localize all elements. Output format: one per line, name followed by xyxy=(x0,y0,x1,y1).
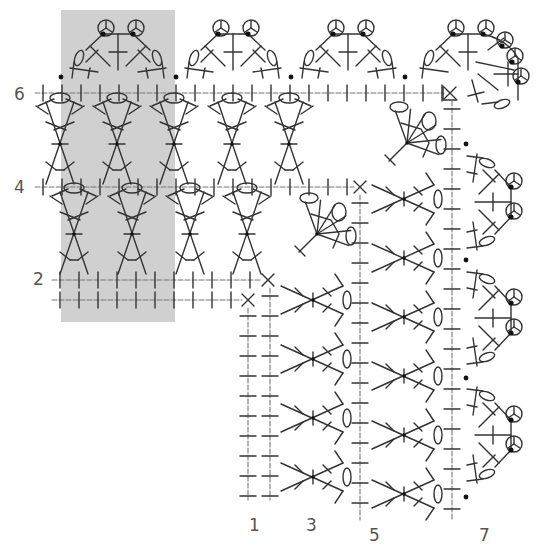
cluster-side xyxy=(281,333,351,385)
cluster-side xyxy=(372,232,442,284)
corner-shell xyxy=(420,20,529,110)
picot xyxy=(506,289,522,306)
slip-stitch xyxy=(174,75,179,80)
crochet-chart xyxy=(0,0,546,560)
cluster-side xyxy=(372,409,442,461)
slip-stitch xyxy=(464,495,469,500)
picot xyxy=(358,20,374,37)
shell-side xyxy=(467,387,522,483)
cluster-side xyxy=(372,291,442,343)
cluster-side xyxy=(281,451,351,503)
slip-stitch xyxy=(464,142,469,147)
cluster-side xyxy=(281,392,351,444)
cluster xyxy=(208,93,256,184)
picot xyxy=(513,68,529,85)
slip-stitch xyxy=(403,75,408,80)
column-label-3: 3 xyxy=(306,517,317,534)
shell-side xyxy=(467,270,522,366)
slip-stitch xyxy=(464,376,469,381)
cluster-side xyxy=(281,274,351,326)
cluster-side xyxy=(372,468,442,520)
slip-stitch xyxy=(59,75,64,80)
shell xyxy=(300,20,396,78)
cluster-side xyxy=(372,173,442,225)
row-1-vertical xyxy=(240,308,256,500)
column-label-5: 5 xyxy=(369,527,380,544)
column-label-1: 1 xyxy=(249,517,260,534)
picot xyxy=(506,319,522,336)
picot xyxy=(243,20,259,37)
slip-stitch xyxy=(464,258,469,263)
corner-fan xyxy=(385,102,446,165)
row-label-6: 6 xyxy=(14,86,25,103)
row-label-4: 4 xyxy=(14,179,25,196)
shell xyxy=(185,20,281,78)
picot xyxy=(506,436,522,453)
picot xyxy=(506,406,522,423)
row-3-vertical xyxy=(262,288,278,500)
picot xyxy=(506,203,522,220)
picot xyxy=(507,48,523,65)
cluster-side xyxy=(372,350,442,402)
slip-stitch xyxy=(289,75,294,80)
shell-side xyxy=(467,154,522,250)
corner-fan xyxy=(295,193,356,256)
picot xyxy=(506,173,522,190)
column-label-7: 7 xyxy=(479,527,490,544)
row-7-vertical xyxy=(444,101,460,520)
row-label-2: 2 xyxy=(33,271,44,288)
cluster xyxy=(265,93,313,184)
cluster xyxy=(223,183,271,274)
